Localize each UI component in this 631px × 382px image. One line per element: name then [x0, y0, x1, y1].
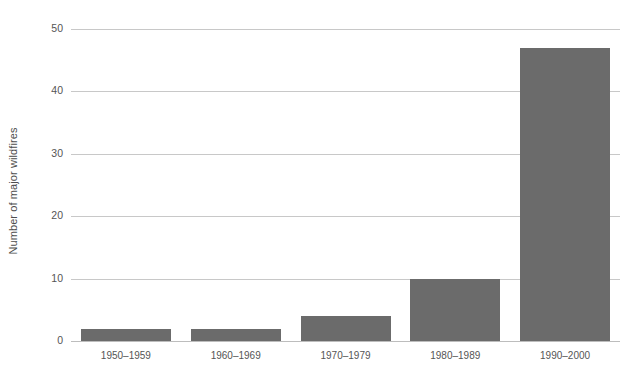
gridline-0 [71, 341, 620, 342]
x-axis-tick-labels: 1950–19591960–19691970–19791980–19891990… [71, 350, 620, 366]
bar [191, 329, 281, 341]
bar [520, 48, 610, 341]
y-tick-label-0: 0 [29, 335, 63, 346]
bar [81, 329, 171, 341]
x-tick-label: 1950–1959 [71, 350, 181, 362]
y-tick-label-30: 30 [29, 148, 63, 159]
x-tick-label: 1960–1969 [181, 350, 291, 362]
bar [410, 279, 500, 341]
y-tick-label-40: 40 [29, 85, 63, 96]
y-tick-label-10: 10 [29, 273, 63, 284]
y-axis-title: Number of major wildfires [0, 0, 26, 382]
y-tick-label-20: 20 [29, 210, 63, 221]
x-tick-label: 1980–1989 [400, 350, 510, 362]
bar-chart-figure: Number of major wildfires 01020304050 19… [0, 0, 631, 382]
bars-group [71, 29, 620, 341]
x-tick-label: 1970–1979 [291, 350, 401, 362]
y-tick-label-50: 50 [29, 23, 63, 34]
bar [301, 316, 391, 341]
x-tick-label: 1990–2000 [510, 350, 620, 362]
plot-area [71, 29, 620, 341]
